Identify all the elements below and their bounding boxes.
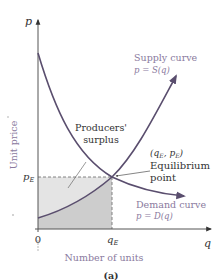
y-axis-title: Unit price — [8, 120, 19, 169]
equilibrium-coords: (qE, pE) — [150, 148, 184, 159]
y-axis-symbol: p — [25, 15, 32, 28]
stray-mark-bottom — [12, 214, 14, 216]
demand-curve-equation: p = D(q) — [136, 211, 173, 221]
producers-surplus-label-line2: surplus — [83, 134, 119, 145]
x-axis-symbol: q — [204, 237, 211, 250]
pe-label: pE — [23, 171, 34, 184]
origin-label: 0 — [35, 234, 41, 245]
figure-caption: (a) — [103, 270, 118, 280]
supply-curve-equation: p = S(q) — [134, 65, 170, 75]
producers-surplus-label-line1: Producers' — [75, 122, 127, 133]
demand-curve-title: Demand curve — [136, 199, 206, 210]
equilibrium-pointer-line — [116, 171, 150, 176]
chart-canvas: p q Unit price 0 qE pE Number of units S… — [0, 0, 222, 280]
equilibrium-label-line2: point — [150, 172, 176, 183]
supply-curve-title: Supply curve — [134, 52, 198, 63]
stray-mark-top — [7, 116, 8, 117]
x-axis-title: Number of units — [65, 252, 144, 263]
qe-label: qE — [107, 234, 118, 247]
equilibrium-label-line1: Equilibrium — [150, 160, 211, 171]
